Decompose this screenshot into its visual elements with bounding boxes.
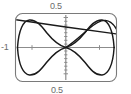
plot-canvas xyxy=(0,0,131,94)
parametric-plot-figure: 0.5 0.5 -1 xyxy=(0,0,131,94)
